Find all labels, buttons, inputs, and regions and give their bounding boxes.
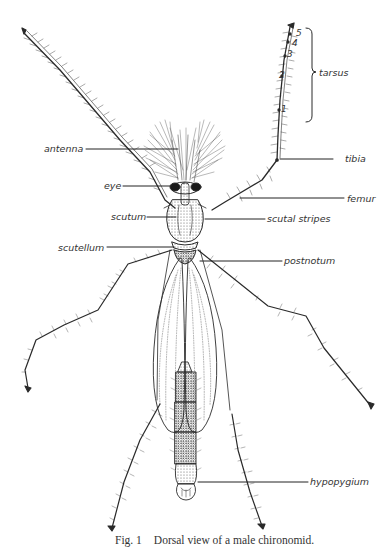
label-antenna: antenna — [44, 143, 83, 154]
figure-caption: Fig. 1Dorsal view of a male chironomid. — [115, 534, 314, 546]
mid-left-leg — [22, 250, 172, 392]
hind-right-leg — [200, 250, 265, 529]
label-scutum: scutum — [111, 211, 146, 222]
tarsal-segment-3: 3 — [287, 49, 293, 59]
tarsus-brace — [306, 28, 316, 122]
label-femur: femur — [347, 193, 375, 204]
label-scutal-stripes: scutal stripes — [267, 213, 330, 224]
front-right-leg — [212, 23, 297, 210]
antennae — [144, 120, 225, 182]
label-eye: eye — [104, 180, 121, 191]
eye-right — [191, 183, 201, 191]
abdomen — [170, 362, 201, 500]
label-tarsus: tarsus — [319, 67, 348, 78]
tarsal-segment-5: 5 — [296, 28, 302, 38]
tarsal-segment-4: 4 — [292, 38, 298, 48]
hind-left-leg — [108, 250, 170, 531]
front-left-leg — [22, 28, 175, 208]
figure-caption-text: Dorsal view of a male chironomid. — [154, 534, 314, 546]
label-postnotum: postnotum — [284, 255, 335, 266]
label-tibia: tibia — [345, 153, 366, 164]
mid-right-leg — [198, 250, 374, 409]
tarsal-segment-2: 2 — [279, 70, 285, 80]
figure-number: Fig. 1 — [115, 534, 142, 546]
label-scutellum: scutellum — [58, 242, 104, 253]
label-hypopygium: hypopygium — [310, 476, 369, 487]
thorax — [164, 200, 206, 264]
tarsal-segment-1: 1 — [281, 104, 287, 114]
eye-left — [170, 183, 180, 191]
